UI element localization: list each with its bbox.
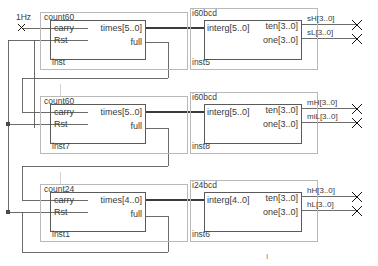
net-label-mH: mH[3..0] xyxy=(307,99,337,107)
port-times-2: times[5..0] xyxy=(66,108,142,117)
port-full-3: full xyxy=(66,210,142,219)
schematic-canvas: count60 carry Rst times[5..0] full inst … xyxy=(0,0,378,266)
port-full-1: full xyxy=(66,38,142,47)
junction-dot-reset-bottom xyxy=(6,210,11,215)
port-ten-3: ten[3..0] xyxy=(220,194,298,203)
instance-name-inst6: inst6 xyxy=(192,230,210,239)
junction-dot-reset-mid xyxy=(6,122,11,127)
port-one-3: one[3..0] xyxy=(220,208,298,217)
block-title-i60bcd-1: i60bcd xyxy=(192,9,217,18)
instance-name-inst1: inst1 xyxy=(52,230,70,239)
port-ten-1: ten[3..0] xyxy=(220,22,298,31)
port-one-2: one[3..0] xyxy=(220,120,298,129)
block-title-i60bcd-2: i60bcd xyxy=(192,93,217,102)
instance-name-inst8: inst8 xyxy=(192,142,210,151)
port-full-2: full xyxy=(66,122,142,131)
output-pin-markers xyxy=(352,20,362,216)
block-title-count60-2: count60 xyxy=(44,97,74,106)
clk-input-pin-marker xyxy=(18,24,25,31)
instance-name-inst7: inst7 xyxy=(52,142,70,151)
instance-name-inst: inst xyxy=(52,58,65,67)
net-label-sH: sH[3..0] xyxy=(307,15,335,23)
net-label-sL: sL[3..0] xyxy=(307,29,333,37)
block-title-i24bcd: i24bcd xyxy=(192,181,217,190)
net-label-hL: hL[3..0] xyxy=(307,201,334,209)
port-one-1: one[3..0] xyxy=(220,36,298,45)
clock-label-1hz: 1Hz xyxy=(16,13,31,22)
block-title-count60-1: count60 xyxy=(44,13,74,22)
port-ten-2: ten[3..0] xyxy=(220,106,298,115)
bottom-tick-mark: I xyxy=(266,252,268,261)
block-title-count24: count24 xyxy=(44,185,74,194)
net-label-hH: hH[3..0] xyxy=(307,187,335,195)
port-times-1: times[5..0] xyxy=(66,24,142,33)
port-times-3: times[4..0] xyxy=(66,196,142,205)
instance-name-inst5: inst5 xyxy=(192,58,210,67)
net-label-miL: miL[3..0] xyxy=(307,113,338,121)
